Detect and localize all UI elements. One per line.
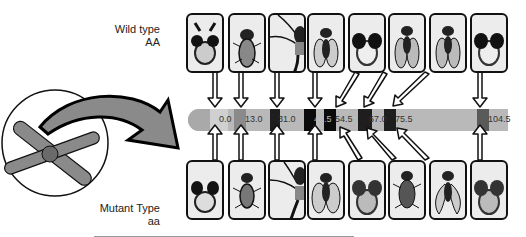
- fly-eye-icon: [472, 15, 508, 73]
- wild-panel-8: [470, 13, 508, 73]
- mutant-panel-8: [470, 160, 508, 220]
- mutant-type-title: Mutant Type: [86, 202, 160, 215]
- wild-panel-1: [186, 13, 224, 73]
- mutant-type-label: Mutant Type aa: [86, 202, 160, 228]
- wild-panel-2: [228, 13, 266, 73]
- wild-panel-3: [268, 13, 306, 73]
- marker-2: 31.0: [278, 114, 296, 124]
- fly-icon: [431, 15, 467, 73]
- mutant-panel-6: [388, 160, 426, 220]
- mutant-type-genotype: aa: [86, 215, 160, 228]
- chromosome-illustration: [0, 60, 130, 200]
- wild-panel-5: [348, 13, 386, 73]
- fly-body-icon: [230, 15, 266, 73]
- marker-0: 0.0: [219, 114, 232, 124]
- mutant-panel-7: [429, 160, 467, 220]
- marker-5: 67.0: [369, 114, 387, 124]
- fly-wings-icon: [309, 162, 345, 220]
- mutant-panel-4: [307, 160, 345, 220]
- chromosome-map-bar: 0.0 13.0 31.0 48.5 54.5 67.0 75.5 104.5: [188, 109, 508, 131]
- wild-type-genotype: AA: [92, 36, 160, 49]
- fly-eye-icon: [350, 15, 386, 73]
- wild-type-title: Wild type: [92, 23, 160, 36]
- marker-6: 75.5: [395, 114, 413, 124]
- wild-panel-6: [388, 13, 426, 73]
- fly-eye-icon: [472, 162, 508, 220]
- mutant-panel-3: [268, 160, 306, 220]
- mutant-panel-5: [348, 160, 386, 220]
- fly-eye-icon: [188, 15, 224, 73]
- fly-eye-icon: [350, 162, 386, 220]
- fly-eye-icon: [188, 162, 224, 220]
- marker-1: 13.0: [245, 114, 263, 124]
- bottom-divider: [94, 236, 354, 237]
- chromosome-icon: [0, 60, 180, 200]
- wild-panel-4: [307, 13, 345, 73]
- fly-icon: [390, 15, 426, 73]
- fly-icon: [390, 162, 426, 220]
- fly-leg-icon: [270, 162, 306, 220]
- wild-panel-7: [429, 13, 467, 73]
- wild-type-label: Wild type AA: [92, 23, 160, 49]
- mutant-panel-1: [186, 160, 224, 220]
- fly-body-icon: [230, 162, 266, 220]
- marker-3: 48.5: [314, 114, 332, 124]
- marker-4: 54.5: [335, 114, 353, 124]
- fly-curled-wings-icon: [431, 162, 467, 220]
- fly-wings-icon: [309, 15, 345, 73]
- mutant-panel-2: [228, 160, 266, 220]
- marker-7: 104.5: [488, 114, 511, 124]
- fly-leg-icon: [270, 15, 306, 73]
